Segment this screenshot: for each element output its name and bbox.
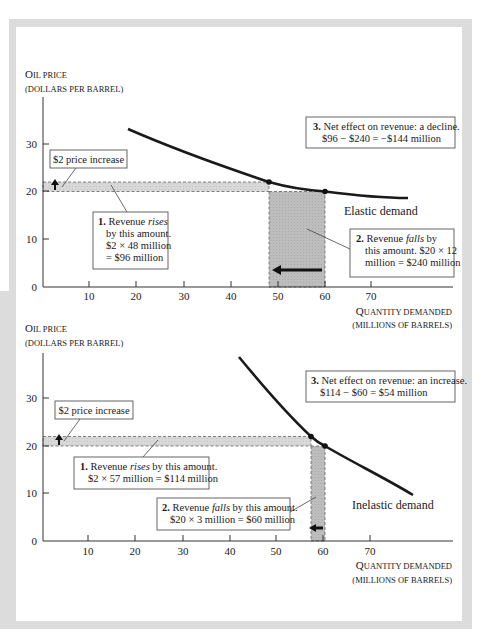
- point-b: [322, 189, 328, 195]
- svg-text:40: 40: [225, 545, 237, 557]
- svg-text:60: 60: [320, 290, 332, 302]
- svg-text:50: 50: [271, 545, 283, 557]
- svg-text:10: 10: [26, 233, 38, 245]
- x-ticks: 10 20 30 40 50 60 70: [83, 535, 377, 557]
- y-axis-title: OIL PRICE: [25, 322, 67, 334]
- svg-text:30: 30: [179, 290, 191, 302]
- y-axis-title: OIL PRICE: [25, 68, 67, 80]
- revenue-gain-region: [43, 182, 269, 192]
- revenue-falls-label: 2. Revenue falls by this amount. $20 × 3…: [162, 502, 300, 525]
- svg-text:20: 20: [130, 545, 142, 557]
- x-axis-title: QUANTITY DEMANDED: [356, 305, 452, 317]
- svg-text:60: 60: [318, 545, 330, 557]
- svg-text:20: 20: [26, 440, 38, 452]
- net-effect-label: 3. Net effect on revenue: a decline. $96…: [313, 121, 462, 144]
- elastic-demand-chart: OIL PRICE (DOLLARS PER BARREL) 30 20 10 …: [25, 68, 462, 330]
- price-increase-label: $2 price increase: [58, 405, 129, 416]
- x-axis-title: QUANTITY DEMANDED: [356, 559, 452, 571]
- elastic-demand-label: Elastic demand: [344, 204, 418, 218]
- revenue-gain-region: [43, 437, 311, 447]
- svg-text:30: 30: [26, 392, 38, 404]
- x-axis-units: (MILLIONS OF BARRELS): [352, 320, 452, 330]
- svg-text:70: 70: [366, 290, 378, 302]
- svg-text:10: 10: [83, 545, 95, 557]
- revenue-rises-label: 1. Revenue rises by this amount. $2 × 48…: [98, 216, 174, 263]
- svg-text:20: 20: [26, 185, 38, 197]
- y-axis-units: (DOLLARS PER BARREL): [25, 84, 123, 94]
- revenue-rises-label: 1. Revenue rises by this amount. $2 × 57…: [80, 461, 220, 484]
- svg-text:10: 10: [26, 487, 38, 499]
- svg-text:30: 30: [26, 138, 38, 150]
- x-ticks: 10 20 30 40 50 60 70: [84, 281, 378, 302]
- point-a: [308, 434, 314, 440]
- point-b: [322, 443, 328, 449]
- y-ticks: 30 20 10 0: [26, 138, 49, 293]
- y-ticks: 30 20 10 0: [26, 392, 49, 547]
- point-a: [266, 179, 272, 185]
- figure-canvas: OIL PRICE (DOLLARS PER BARREL) 30 20 10 …: [0, 0, 492, 635]
- inelastic-demand-chart: OIL PRICE (DOLLARS PER BARREL) 30 20 10 …: [25, 322, 470, 585]
- y-axis-units: (DOLLARS PER BARREL): [25, 338, 123, 348]
- price-increase-label: $2 price increase: [53, 154, 124, 165]
- svg-text:20: 20: [131, 290, 143, 302]
- svg-text:0: 0: [32, 535, 38, 547]
- x-axis-units: (MILLIONS OF BARRELS): [352, 575, 452, 585]
- inelastic-demand-label: Inelastic demand: [352, 498, 434, 512]
- svg-text:50: 50: [273, 290, 285, 302]
- svg-text:10: 10: [84, 290, 96, 302]
- svg-text:70: 70: [365, 545, 377, 557]
- svg-text:0: 0: [32, 281, 38, 293]
- svg-text:30: 30: [178, 545, 190, 557]
- svg-text:40: 40: [226, 290, 238, 302]
